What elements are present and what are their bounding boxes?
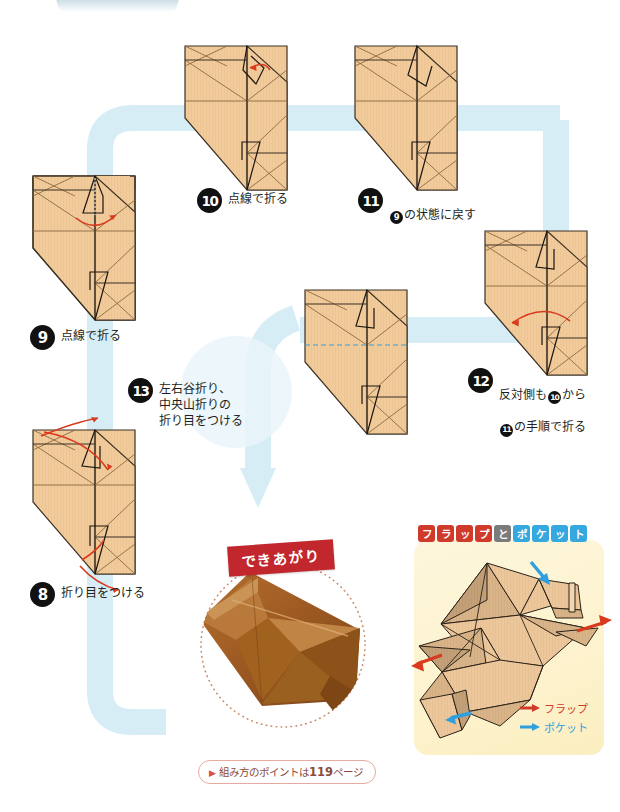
step-10-badge: 10 <box>197 188 222 213</box>
step-11-badge: 11 <box>358 188 383 213</box>
step-12-badge: 12 <box>468 368 493 393</box>
step-8-badge: 8 <box>30 582 55 607</box>
title-char-7: ッ <box>551 525 568 542</box>
title-char-8: ト <box>570 525 587 542</box>
flap-pocket-title: フラップとポケット <box>418 525 587 542</box>
step-12-text: 反対側も10から 11の手順で折る <box>499 368 586 437</box>
triangle-icon: ▶ <box>209 768 216 778</box>
title-char-4: と <box>494 525 511 542</box>
step-11-text-after: の状態に戻す <box>404 208 476 222</box>
title-char-3: プ <box>475 525 492 542</box>
page-note-prefix: 組み方のポイントは <box>219 766 309 778</box>
step-13: 13 左右谷折り、 中央山折りの 折り目をつける <box>128 378 243 429</box>
title-char-1: ラ <box>437 525 454 542</box>
flap-pocket-legend: フラップポケット <box>520 700 588 738</box>
step-9: 9 点線で折る <box>30 325 121 350</box>
step-10-text: 点線で折る <box>228 188 288 208</box>
step-12-ref-badge-10: 10 <box>548 391 561 404</box>
step-12: 12 反対側も10から 11の手順で折る <box>468 368 586 437</box>
page-note-suffix: ページ <box>333 766 363 778</box>
step-12-line1-after: から <box>562 388 586 402</box>
blue-arrow-icon <box>520 722 540 732</box>
legend-row-1: ポケット <box>520 719 588 735</box>
step-11-ref-badge: 9 <box>390 211 403 224</box>
red-arrow-icon <box>520 703 540 713</box>
step-10: 10 点線で折る <box>197 188 288 213</box>
step-12-line1-before: 反対側も <box>499 388 547 402</box>
title-char-5: ポ <box>513 525 530 542</box>
title-char-0: フ <box>418 525 435 542</box>
legend-label-0: フラップ <box>544 700 588 716</box>
step-13-text: 左右谷折り、 中央山折りの 折り目をつける <box>159 378 243 429</box>
legend-label-1: ポケット <box>544 719 588 735</box>
step-9-text: 点線で折る <box>61 325 121 345</box>
title-char-6: ケ <box>532 525 549 542</box>
page-note-number: 119 <box>309 765 333 779</box>
page-reference-note: ▶組み方のポイントは119ページ <box>198 760 376 784</box>
finished-photo <box>200 572 360 712</box>
legend-row-0: フラップ <box>520 700 588 716</box>
step-11-text: 9の状態に戻す <box>389 188 476 224</box>
step-11: 11 9の状態に戻す <box>358 188 476 224</box>
title-char-2: ッ <box>456 525 473 542</box>
step-12-line2-after: の手順で折る <box>514 420 586 434</box>
step-13-badge: 13 <box>128 378 153 403</box>
step-12-ref-badge-11: 11 <box>500 424 513 437</box>
step-8-text: 折り目をつける <box>61 582 145 602</box>
step-8: 8 折り目をつける <box>30 582 145 607</box>
finished-ribbon: できあがり <box>227 539 335 576</box>
origami-instruction-page: 9 点線で折る <box>0 0 620 812</box>
step-9-badge: 9 <box>30 325 55 350</box>
